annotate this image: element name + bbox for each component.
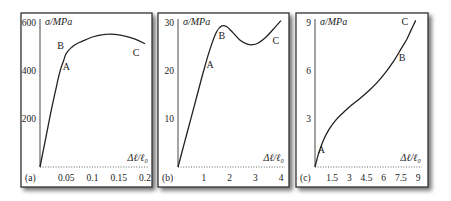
x-tick-label: 1.5 <box>326 173 338 183</box>
x-tick-label: 0.2 <box>139 173 151 183</box>
x-tick-label: 1 <box>201 173 206 183</box>
x-tick-label: 9 <box>416 173 421 183</box>
y-tick-label: 6 <box>306 66 311 76</box>
x-axis-label: Δℓ/ℓ₀ <box>400 152 422 163</box>
y-axis-label: σ/MPa <box>45 16 72 27</box>
y-tick-label: 600 <box>22 18 37 28</box>
x-tick-label: 0.05 <box>58 173 75 183</box>
y-tick-label: 10 <box>165 114 175 124</box>
y-tick-label: 20 <box>165 66 175 76</box>
x-tick-label: 4 <box>279 173 284 183</box>
y-tick-label: 400 <box>22 66 37 76</box>
y-axis-label: σ/MPa <box>183 16 210 27</box>
chart-panel-a: 2004006000.050.10.150.2(a)σ/MPaΔℓ/ℓ₀ABC <box>21 13 152 187</box>
point-label-b: B <box>57 40 64 51</box>
x-axis-label: Δℓ/ℓ₀ <box>263 152 285 163</box>
x-tick-label: 7.5 <box>395 173 407 183</box>
figure: 2004006000.050.10.150.2(a)σ/MPaΔℓ/ℓ₀ABC1… <box>0 0 451 201</box>
x-tick-label: 4.5 <box>361 173 373 183</box>
chart-panel-b: 1020301234(b)σ/MPaΔℓ/ℓ₀ABC <box>158 13 289 187</box>
x-tick-label: 6 <box>381 173 386 183</box>
x-tick-label: 0.15 <box>110 173 127 183</box>
panel-label: (c) <box>300 173 311 184</box>
y-tick-label: 200 <box>22 114 37 124</box>
panel-label: (a) <box>25 173 36 184</box>
point-label-c: C <box>133 47 140 58</box>
point-label-b: B <box>399 52 406 63</box>
x-tick-label: 0.1 <box>87 173 99 183</box>
y-tick-label: 30 <box>165 18 175 28</box>
y-axis-label: σ/MPa <box>320 16 347 27</box>
point-label-a: A <box>63 61 71 72</box>
y-tick-label: 3 <box>306 114 311 124</box>
x-axis-label: Δℓ/ℓ₀ <box>127 152 149 163</box>
x-tick-label: 2 <box>227 173 232 183</box>
y-tick-label: 9 <box>306 18 311 28</box>
point-label-a: A <box>207 59 215 70</box>
point-label-c: C <box>273 35 280 46</box>
panel-label: (b) <box>162 173 173 184</box>
x-tick-label: 3 <box>253 173 258 183</box>
point-label-a: A <box>318 144 326 155</box>
chart-panel-c: 3691.534.567.59(c)σ/MPaΔℓ/ℓ₀ABC <box>296 13 428 187</box>
point-label-b: B <box>218 30 225 41</box>
point-label-c: C <box>402 16 409 27</box>
x-tick-label: 3 <box>347 173 352 183</box>
